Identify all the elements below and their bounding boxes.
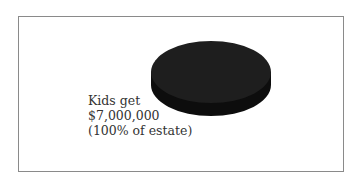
label-line-1: Kids get [88,93,192,108]
pie-chart-3d [0,0,363,181]
slice-label: Kids get $7,000,000 (100% of estate) [88,93,192,138]
label-line-2: $7,000,000 [88,108,192,123]
label-line-3: (100% of estate) [88,123,192,138]
